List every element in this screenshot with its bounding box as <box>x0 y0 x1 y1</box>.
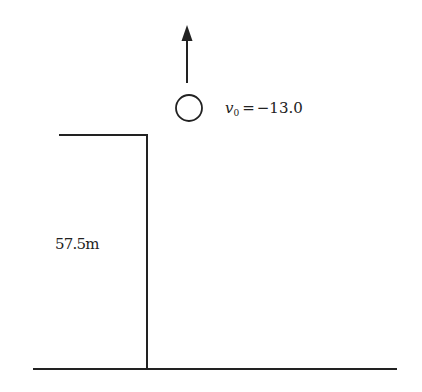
height-label: 57.5m <box>55 235 99 253</box>
projectile-diagram: v0=−13.0 57.5m <box>0 0 422 392</box>
ball-icon <box>176 95 202 121</box>
velocity-label: v0=−13.0 <box>225 99 303 118</box>
